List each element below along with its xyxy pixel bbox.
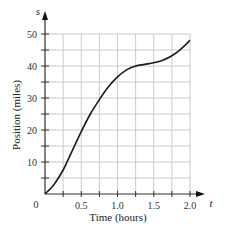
origin-label: 0 <box>34 199 39 210</box>
x-axis-variable: t <box>209 197 213 209</box>
x-axis-arrow-icon <box>196 191 205 197</box>
y-tick-label: 40 <box>27 61 37 72</box>
x-axis-title: Time (hours) <box>89 211 147 224</box>
y-axis-arrow-icon <box>42 11 48 20</box>
x-tick-label: 1.0 <box>111 200 124 211</box>
y-tick-label: 20 <box>27 125 37 136</box>
y-axis-title: Position (miles) <box>10 80 23 150</box>
x-tick-label: 1.5 <box>148 200 161 211</box>
position-time-chart: 0.51.01.52.01020304050 0 t s Time (hours… <box>0 0 228 232</box>
axes <box>42 11 205 197</box>
x-tick-label: 2.0 <box>184 200 197 211</box>
y-tick-label: 30 <box>27 93 37 104</box>
x-tick-label: 0.5 <box>75 200 88 211</box>
y-tick-label: 50 <box>27 29 37 40</box>
y-axis-variable: s <box>36 5 40 17</box>
y-tick-label: 10 <box>27 157 37 168</box>
